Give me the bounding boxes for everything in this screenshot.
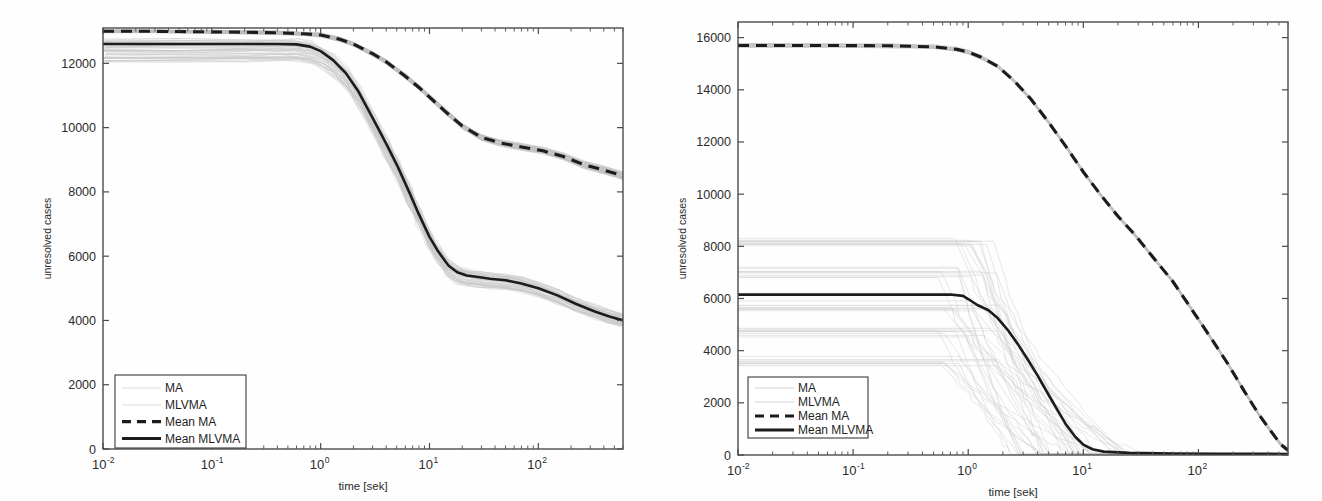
y-tick-label: 6000: [68, 250, 96, 264]
x-tick-exponent: 0: [972, 461, 977, 471]
chart-svg: 020004000600080001000012000140001600010-…: [661, 0, 1322, 501]
chart-panel-right: 020004000600080001000012000140001600010-…: [661, 0, 1322, 501]
legend-label: Mean MLVMA: [798, 423, 873, 437]
legend-label: Mean MA: [798, 409, 849, 423]
y-axis-label: unresolved cases: [676, 198, 688, 280]
x-tick-label: 10: [842, 463, 856, 478]
y-tick-label: 4000: [703, 344, 731, 358]
chart-panel-left: 02000400060008000100001200010-210-110010…: [0, 0, 661, 501]
legend: MAMLVMAMean MAMean MLVMA: [748, 377, 873, 438]
legend-label: Mean MLVMA: [165, 432, 240, 446]
y-tick-label: 0: [89, 443, 96, 457]
y-tick-label: 8000: [68, 185, 96, 199]
y-axis-label: unresolved cases: [41, 198, 53, 280]
chart-svg: 02000400060008000100001200010-210-110010…: [0, 0, 661, 501]
x-tick-label: 10: [1072, 463, 1086, 478]
x-tick-exponent: -2: [742, 461, 750, 471]
x-tick-exponent: 2: [1202, 461, 1207, 471]
x-tick-exponent: -1: [857, 461, 865, 471]
legend-label: Mean MA: [165, 415, 216, 429]
ensemble-traces: [100, 30, 627, 327]
x-axis-label: time [sek]: [988, 486, 1037, 498]
legend-label: MA: [165, 381, 183, 395]
x-tick-exponent: 1: [1087, 461, 1092, 471]
x-tick-label: 10: [310, 457, 324, 472]
y-tick-label: 14000: [696, 83, 731, 97]
legend-label: MLVMA: [165, 398, 207, 412]
y-tick-label: 10000: [61, 121, 96, 135]
legend-label: MLVMA: [798, 395, 840, 409]
x-axis-label: time [sek]: [338, 480, 387, 492]
figure-two-panel-line-charts: 02000400060008000100001200010-210-110010…: [0, 0, 1322, 501]
y-tick-label: 16000: [696, 31, 731, 45]
x-tick-label: 10: [201, 457, 215, 472]
y-tick-label: 12000: [61, 57, 96, 71]
x-tick-exponent: 1: [433, 455, 438, 465]
x-tick-label: 10: [418, 457, 432, 472]
x-tick-label: 10: [1187, 463, 1201, 478]
x-tick-exponent: 0: [325, 455, 330, 465]
x-tick-label: 10: [727, 463, 741, 478]
y-tick-label: 12000: [696, 135, 731, 149]
x-tick-label: 10: [957, 463, 971, 478]
x-tick-exponent: 2: [542, 455, 547, 465]
x-tick-label: 10: [527, 457, 541, 472]
y-tick-label: 10000: [696, 188, 731, 202]
y-tick-label: 2000: [703, 396, 731, 410]
x-tick-label: 10: [92, 457, 106, 472]
legend-label: MA: [798, 381, 816, 395]
y-tick-label: 4000: [68, 314, 96, 328]
y-tick-label: 2000: [68, 378, 96, 392]
y-tick-label: 8000: [703, 240, 731, 254]
x-tick-exponent: -1: [216, 455, 224, 465]
legend: MAMLVMAMean MAMean MLVMA: [115, 375, 246, 448]
series-mean-mlvma: [103, 44, 623, 320]
y-tick-label: 0: [724, 449, 731, 463]
x-tick-exponent: -2: [107, 455, 115, 465]
y-tick-label: 6000: [703, 292, 731, 306]
